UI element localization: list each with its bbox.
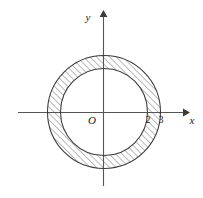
x-tick-label-2: 2 xyxy=(146,114,151,125)
math-figure-annulus: y x O 2 3 xyxy=(0,0,203,198)
figure-canvas: y x O 2 3 xyxy=(0,0,203,198)
x-tick-label-3: 3 xyxy=(159,114,164,125)
origin-label: O xyxy=(88,114,96,126)
x-axis-label: x xyxy=(189,114,195,126)
y-axis-label: y xyxy=(85,11,91,23)
